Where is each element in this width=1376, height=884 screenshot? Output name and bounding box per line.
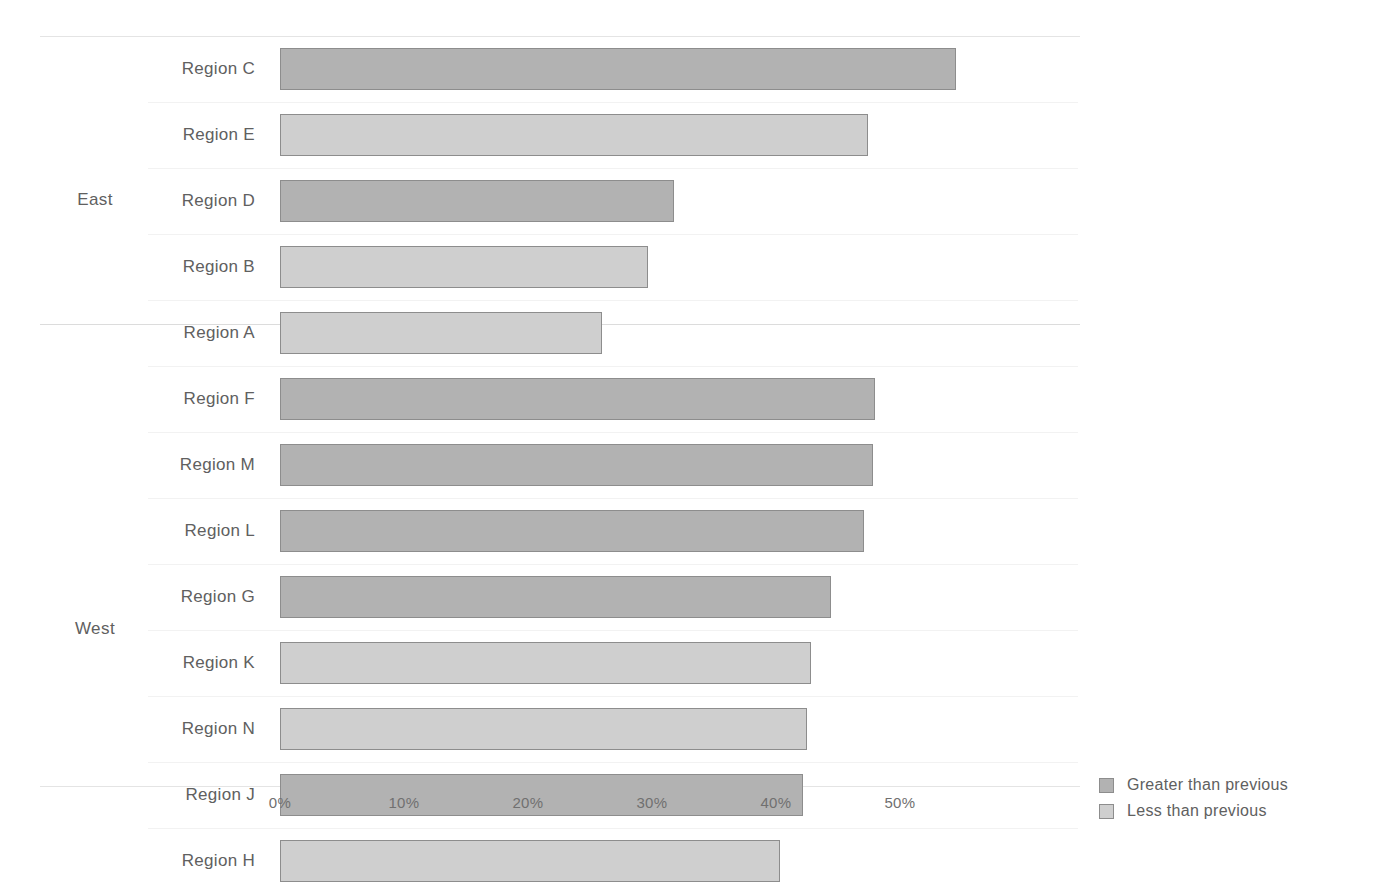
- x-axis-tick-label: 10%: [369, 794, 439, 811]
- bar-row[interactable]: Region H: [0, 828, 1376, 884]
- bar-greater[interactable]: [280, 510, 864, 552]
- x-axis-tick-label: 0%: [245, 794, 315, 811]
- bar-row[interactable]: Region D: [0, 168, 1376, 234]
- x-axis-tick-label: 40%: [741, 794, 811, 811]
- bar-less[interactable]: [280, 708, 807, 750]
- bar-greater[interactable]: [280, 48, 956, 90]
- legend-swatch-greater: [1099, 778, 1114, 793]
- bar-row-label: Region J: [90, 762, 255, 828]
- bar-greater[interactable]: [280, 576, 831, 618]
- bar-row-label: Region F: [90, 366, 255, 432]
- legend-label: Greater than previous: [1127, 776, 1288, 794]
- bar-row[interactable]: Region F: [0, 366, 1376, 432]
- plot-area: EastWest Region CRegion ERegion DRegion …: [0, 0, 1376, 884]
- bar-row-label: Region G: [90, 564, 255, 630]
- bar-greater[interactable]: [280, 378, 875, 420]
- legend-item-less[interactable]: Less than previous: [1099, 798, 1369, 824]
- bar-row[interactable]: Region C: [0, 36, 1376, 102]
- x-axis-tick-label: 20%: [493, 794, 563, 811]
- bar-row-label: Region B: [90, 234, 255, 300]
- bar-row-label: Region H: [90, 828, 255, 884]
- bar-row-label: Region D: [90, 168, 255, 234]
- bar-row[interactable]: Region N: [0, 696, 1376, 762]
- bar-row-label: Region N: [90, 696, 255, 762]
- bar-row[interactable]: Region K: [0, 630, 1376, 696]
- legend-item-greater[interactable]: Greater than previous: [1099, 772, 1369, 798]
- bar-less[interactable]: [280, 312, 602, 354]
- bar-less[interactable]: [280, 642, 811, 684]
- legend-label: Less than previous: [1127, 802, 1267, 820]
- bar-row[interactable]: Region G: [0, 564, 1376, 630]
- bar-greater[interactable]: [280, 180, 674, 222]
- x-axis-tick-label: 50%: [865, 794, 935, 811]
- bar-chart: EastWest Region CRegion ERegion DRegion …: [0, 0, 1376, 884]
- bar-row-label: Region M: [90, 432, 255, 498]
- bar-less[interactable]: [280, 246, 648, 288]
- legend-swatch-less: [1099, 804, 1114, 819]
- bar-row-label: Region L: [90, 498, 255, 564]
- bar-row-label: Region E: [90, 102, 255, 168]
- bar-row-label: Region K: [90, 630, 255, 696]
- bar-row-label: Region A: [90, 300, 255, 366]
- bar-row[interactable]: Region L: [0, 498, 1376, 564]
- bar-row-label: Region C: [90, 36, 255, 102]
- x-axis-tick-label: 30%: [617, 794, 687, 811]
- chart-legend: Greater than previousLess than previous: [1099, 772, 1369, 824]
- bar-row[interactable]: Region E: [0, 102, 1376, 168]
- bar-row[interactable]: Region M: [0, 432, 1376, 498]
- bar-row[interactable]: Region A: [0, 300, 1376, 366]
- bar-less[interactable]: [280, 114, 868, 156]
- bar-less[interactable]: [280, 840, 780, 882]
- bar-row[interactable]: Region B: [0, 234, 1376, 300]
- bar-greater[interactable]: [280, 444, 873, 486]
